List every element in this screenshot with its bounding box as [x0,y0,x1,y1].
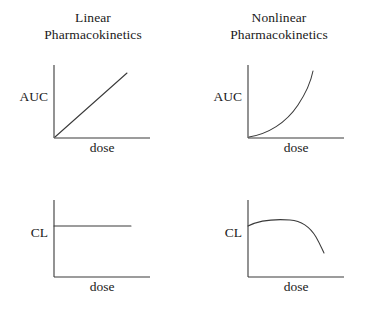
plot-area-nonlinear-auc [248,65,344,138]
panel-title-line1: Nonlinear [186,9,372,26]
plot-area-linear-cl [54,200,150,277]
plot-area-linear-auc [54,65,150,138]
data-line-linear-auc [55,73,127,137]
panel-linear-auc: Linear Pharmacokinetics AUC dose [0,0,186,160]
data-curve-nonlinear-auc [249,71,313,137]
panel-title-nonlinear: Nonlinear Pharmacokinetics [186,9,372,43]
panel-title-line2: Pharmacokinetics [0,26,186,43]
pharmacokinetics-figure: Linear Pharmacokinetics AUC dose Nonline… [0,0,372,315]
plot-svg-nonlinear-auc [242,59,352,149]
data-curve-nonlinear-cl [248,220,324,253]
panel-title-line1: Linear [0,9,186,26]
plot-svg-linear-auc [48,59,158,149]
plot-area-nonlinear-cl [248,200,344,277]
y-axis-label-cl-linear: CL [14,226,48,240]
y-axis-label-auc-nonlinear: AUC [202,90,242,104]
y-axis-label-auc-linear: AUC [8,90,48,104]
panel-nonlinear-cl: CL dose [186,160,372,315]
plot-svg-nonlinear-cl [242,194,352,289]
panel-linear-cl: CL dose [0,160,186,315]
panel-nonlinear-auc: Nonlinear Pharmacokinetics AUC dose [186,0,372,160]
y-axis-label-cl-nonlinear: CL [208,226,242,240]
plot-svg-linear-cl [48,194,158,289]
panel-title-linear: Linear Pharmacokinetics [0,9,186,43]
panel-title-line2: Pharmacokinetics [186,26,372,43]
